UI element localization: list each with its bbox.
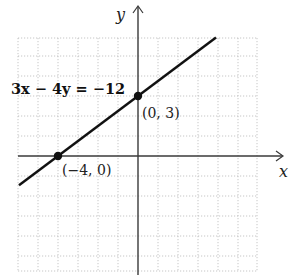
data-point-label: (−4, 0) — [62, 162, 111, 178]
axes: x y — [18, 5, 288, 275]
series-line — [19, 38, 216, 186]
data-point-label: (0, 3) — [142, 105, 180, 121]
data-point — [54, 152, 62, 160]
data-point — [134, 92, 142, 100]
y-axis-label: y — [115, 5, 126, 24]
points-group: (−4, 0)(0, 3) — [54, 92, 180, 178]
chart: x y (−4, 0)(0, 3) 3x − 4y = −12 — [0, 0, 296, 277]
equation-label: 3x − 4y = −12 — [11, 80, 125, 97]
x-axis-label: x — [279, 162, 288, 181]
series-group — [19, 38, 216, 186]
